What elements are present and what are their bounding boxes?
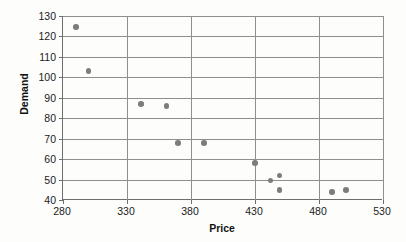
x-axis-tick	[255, 200, 256, 204]
y-axis-tick-label: 70	[30, 134, 56, 144]
x-axis-tick-label: 280	[42, 205, 82, 217]
data-point	[252, 160, 258, 166]
data-point	[164, 103, 170, 109]
data-point	[138, 101, 144, 107]
y-axis-tick-label: 80	[30, 113, 56, 123]
x-axis-tick-label: 330	[106, 205, 146, 217]
x-axis-title: Price	[62, 222, 382, 234]
x-axis-tick	[383, 200, 384, 204]
y-axis-tick	[59, 159, 63, 160]
data-point	[277, 187, 283, 193]
gridline-vertical	[319, 16, 320, 200]
x-axis-tick-label: 430	[234, 205, 274, 217]
gridline-horizontal	[63, 118, 383, 119]
plot-area	[62, 16, 382, 200]
y-axis-tick-label: 130	[30, 11, 56, 21]
data-point	[268, 178, 274, 184]
y-axis-tick-label: 50	[30, 175, 56, 185]
gridline-vertical	[383, 16, 384, 200]
scatter-chart: 405060708090100110120130 280330380430480…	[0, 0, 406, 242]
y-axis-tick	[59, 139, 63, 140]
data-point	[277, 173, 283, 179]
gridline-horizontal	[63, 16, 383, 17]
gridline-vertical	[255, 16, 256, 200]
data-point	[86, 68, 92, 74]
y-axis-tick	[59, 57, 63, 58]
gridline-vertical	[127, 16, 128, 200]
gridline-horizontal	[63, 98, 383, 99]
gridline-horizontal	[63, 139, 383, 140]
x-axis-tick-label: 480	[298, 205, 338, 217]
x-axis-tick	[63, 200, 64, 204]
gridline-vertical	[191, 16, 192, 200]
y-axis-tick-label: 90	[30, 93, 56, 103]
y-axis-tick-label: 120	[30, 31, 56, 41]
gridline-horizontal	[63, 159, 383, 160]
data-point	[201, 140, 207, 146]
data-point	[175, 140, 181, 146]
y-axis-tick	[59, 77, 63, 78]
gridline-horizontal	[63, 180, 383, 181]
y-axis-tick	[59, 98, 63, 99]
data-point	[329, 189, 335, 195]
x-axis-tick	[191, 200, 192, 204]
x-axis-tick-label: 380	[170, 205, 210, 217]
y-axis-tick	[59, 16, 63, 17]
x-axis-tick	[319, 200, 320, 204]
x-axis-tick-labels: 280330380430480530	[62, 205, 382, 219]
data-point	[73, 24, 79, 30]
y-axis-tick	[59, 180, 63, 181]
x-axis-tick-label: 530	[362, 205, 402, 217]
y-axis-tick	[59, 118, 63, 119]
y-axis-tick-label: 110	[30, 52, 56, 62]
y-axis-tick-label: 100	[30, 72, 56, 82]
data-point	[343, 187, 349, 193]
y-axis-tick-label: 40	[30, 195, 56, 205]
y-axis-tick	[59, 36, 63, 37]
y-axis-title: Demand	[18, 64, 30, 124]
gridline-horizontal	[63, 77, 383, 78]
gridline-horizontal	[63, 57, 383, 58]
gridline-horizontal	[63, 36, 383, 37]
x-axis-tick	[127, 200, 128, 204]
y-axis-tick-label: 60	[30, 154, 56, 164]
